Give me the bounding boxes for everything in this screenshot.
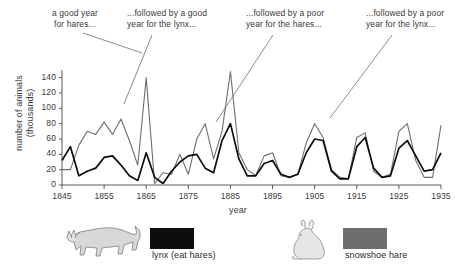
legend-label-lynx: lynx (eat hares) xyxy=(152,250,216,260)
hare-icon xyxy=(292,220,324,259)
legend-swatch-lynx xyxy=(150,228,194,249)
legend-swatch-hare xyxy=(343,228,387,249)
lynx-icon xyxy=(67,226,140,256)
lynx-hare-population-chart: a good year for hares... ...followed by … xyxy=(0,0,455,268)
legend-label-hare: snowshoe hare xyxy=(345,250,407,260)
